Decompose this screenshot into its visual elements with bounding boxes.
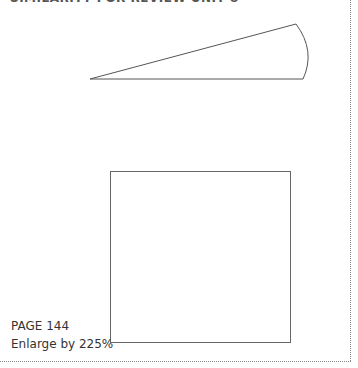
square-shape [111, 172, 291, 343]
page-label: PAGE 144 [11, 319, 69, 333]
sector-shape [90, 24, 308, 79]
figures-canvas [0, 0, 358, 368]
enlarge-label: Enlarge by 225% [11, 337, 113, 351]
